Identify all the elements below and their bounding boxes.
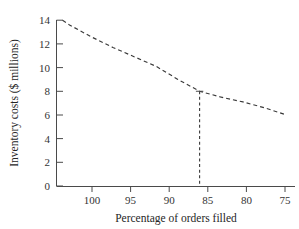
y-tick-label: 10 [39,62,51,74]
x-tick-label: 100 [84,194,101,206]
y-tick-label: 14 [39,14,51,26]
x-axis-title: Percentage of orders filled [115,212,237,225]
x-tick-label: 85 [202,194,214,206]
y-tick-label: 8 [45,85,51,97]
inventory-cost-chart: 0 2 4 6 8 10 12 14 100 95 90 85 80 75 [0,0,299,229]
x-tick-label: 95 [125,194,137,206]
chart-svg: 0 2 4 6 8 10 12 14 100 95 90 85 80 75 [0,0,299,229]
y-tick-label: 0 [45,180,51,192]
y-tick-label: 4 [45,133,51,145]
x-tick-label: 80 [241,194,253,206]
y-tick-label: 12 [39,38,50,50]
x-tick-label: 90 [164,194,176,206]
x-tick-label: 75 [280,194,292,206]
y-tick-label: 6 [45,109,51,121]
y-axis-title: Inventory costs ($ millions) [8,39,21,167]
y-tick-label: 2 [45,156,51,168]
